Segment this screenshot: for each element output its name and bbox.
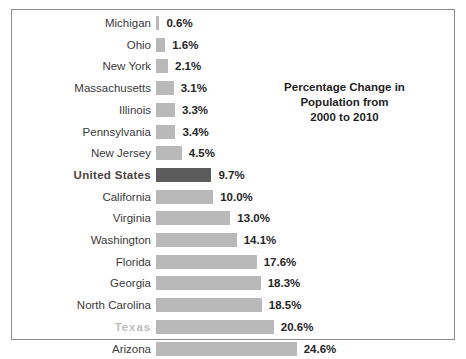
bar-row: Ohio1.6% (12, 35, 456, 55)
bar (156, 103, 175, 117)
bar-value-label: 24.6% (304, 339, 337, 359)
bar-category-label: Virginia (12, 208, 151, 228)
bar-value-label: 18.3% (268, 273, 301, 293)
bar-value-label: 18.5% (269, 295, 302, 315)
bar-value-label: 0.6% (166, 13, 192, 33)
bar-value-label: 9.7% (218, 165, 244, 185)
bar-row: New York2.1% (12, 56, 456, 76)
bar-value-label: 17.6% (264, 252, 297, 272)
bar-category-label: Georgia (12, 273, 151, 293)
bar-category-label: Pennsylvania (12, 122, 151, 142)
bar-row: Illinois3.3% (12, 100, 456, 120)
bar-row: Texas20.6% (12, 317, 456, 337)
bar-value-label: 14.1% (244, 230, 277, 250)
bar-value-label: 4.5% (189, 143, 215, 163)
bar-category-label: California (12, 187, 151, 207)
bar-row: Florida17.6% (12, 252, 456, 272)
bar-category-label: Washington (12, 230, 151, 250)
bar (156, 81, 174, 95)
bar (156, 168, 211, 182)
bar-category-label: Texas (12, 317, 151, 337)
bar-category-label: Michigan (12, 13, 151, 33)
bar (156, 320, 274, 334)
bar-row: Virginia13.0% (12, 208, 456, 228)
bar (156, 298, 262, 312)
bar-chart-plot-area: Michigan0.6%Ohio1.6%New York2.1%Massachu… (12, 10, 456, 341)
bar-row: Michigan0.6% (12, 13, 456, 33)
bar-value-label: 3.4% (182, 122, 208, 142)
bar-row: North Carolina18.5% (12, 295, 456, 315)
bar-category-label: Ohio (12, 35, 151, 55)
bar (156, 190, 213, 204)
bar-row: New Jersey4.5% (12, 143, 456, 163)
bar-value-label: 1.6% (172, 35, 198, 55)
bar-value-label: 10.0% (220, 187, 253, 207)
bar-category-label: New Jersey (12, 143, 151, 163)
bar-value-label: 3.1% (181, 78, 207, 98)
bar-row: United States9.7% (12, 165, 456, 185)
bar-value-label: 13.0% (237, 208, 270, 228)
bar-row: Pennsylvania3.4% (12, 122, 456, 142)
bar-row: Georgia18.3% (12, 273, 456, 293)
bar (156, 38, 165, 52)
bar (156, 342, 297, 356)
chart-frame: Percentage Change in Population from 200… (11, 9, 455, 340)
bar-category-label: North Carolina (12, 295, 151, 315)
bar-value-label: 20.6% (281, 317, 314, 337)
bar (156, 16, 159, 30)
bar-row: California10.0% (12, 187, 456, 207)
bar-category-label: Florida (12, 252, 151, 272)
bar (156, 59, 168, 73)
bar-row: Arizona24.6% (12, 339, 456, 359)
bar (156, 146, 182, 160)
bar (156, 276, 261, 290)
bar-category-label: Massachusetts (12, 78, 151, 98)
bar-value-label: 3.3% (182, 100, 208, 120)
bar (156, 255, 257, 269)
bar-category-label: United States (12, 165, 151, 185)
bar-row: Massachusetts3.1% (12, 78, 456, 98)
bar (156, 125, 175, 139)
bar (156, 211, 230, 225)
bar-category-label: Illinois (12, 100, 151, 120)
bar-category-label: New York (12, 56, 151, 76)
bar (156, 233, 237, 247)
bar-category-label: Arizona (12, 339, 151, 359)
bar-value-label: 2.1% (175, 56, 201, 76)
bar-row: Washington14.1% (12, 230, 456, 250)
